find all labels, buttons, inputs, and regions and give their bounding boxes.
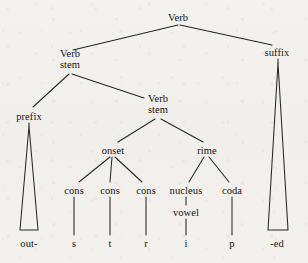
tree-edges-svg <box>0 0 308 263</box>
terminal-suffix-text: -ed <box>270 238 284 249</box>
node-prefix: prefix <box>16 111 42 122</box>
edge-onset-to-cons-2 <box>110 157 112 182</box>
terminal-t: t <box>108 238 111 249</box>
linguistic-tree-diagram: Verb Verb stem suffix prefix Verb stem o… <box>0 0 308 263</box>
edge-verb-stem-1-to-prefix <box>33 74 69 107</box>
node-root-verb: Verb <box>168 12 188 23</box>
edge-verb-stem-2-to-rime <box>161 119 203 142</box>
node-verb-stem-2-line2: stem <box>148 105 168 116</box>
node-verb-stem-1: Verb stem <box>60 49 80 71</box>
node-nucleus: nucleus <box>170 185 203 196</box>
terminal-p: p <box>229 238 234 249</box>
prefix-triangle <box>20 126 38 230</box>
node-verb-stem-2: Verb stem <box>148 94 168 116</box>
edge-root-to-verb-stem-1 <box>73 25 178 50</box>
node-vowel: vowel <box>173 207 199 218</box>
edge-root-to-suffix <box>180 25 272 45</box>
node-cons-3: cons <box>136 185 156 196</box>
node-rime: rime <box>197 145 217 156</box>
edge-verb-stem-1-to-verb-stem-2 <box>72 74 144 98</box>
node-verb-stem-1-line2: stem <box>60 60 80 71</box>
node-cons-2: cons <box>100 185 120 196</box>
node-coda: coda <box>222 185 242 196</box>
suffix-triangle <box>268 63 288 230</box>
edge-verb-stem-2-to-onset <box>118 119 155 142</box>
terminal-r: r <box>144 238 148 249</box>
node-cons-1: cons <box>64 185 84 196</box>
edge-rime-to-nucleus <box>189 157 204 182</box>
node-suffix: suffix <box>265 47 290 58</box>
edge-onset-to-cons-1 <box>79 157 110 182</box>
node-onset: onset <box>102 145 125 156</box>
edge-rime-to-coda <box>209 157 229 182</box>
terminal-i: i <box>184 238 187 249</box>
terminal-s: s <box>72 238 76 249</box>
terminal-prefix-text: out- <box>20 238 37 249</box>
edge-onset-to-cons-3 <box>115 157 142 182</box>
